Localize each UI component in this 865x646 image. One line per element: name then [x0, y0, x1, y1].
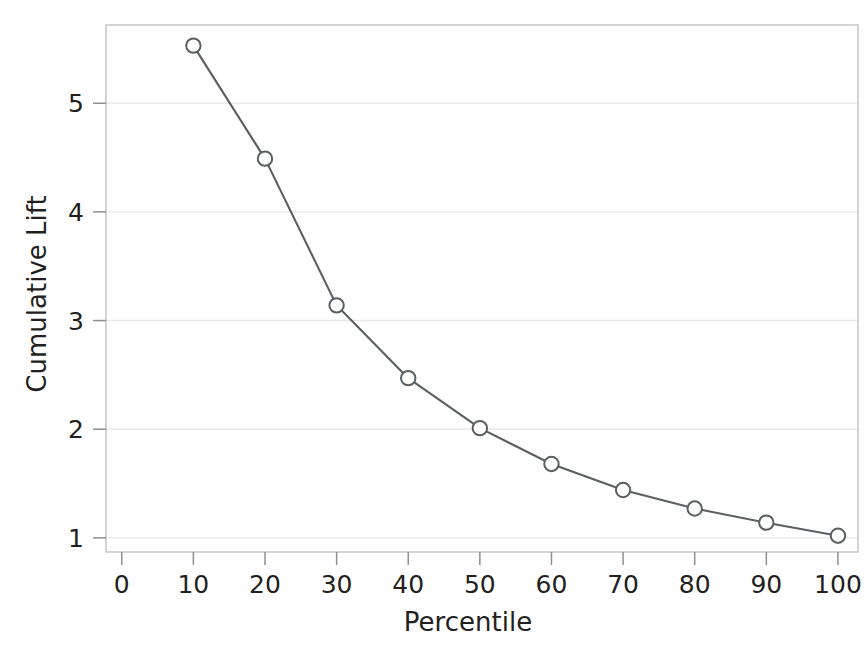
x-axis-title: Percentile [404, 607, 532, 637]
y-tick-label-1: 1 [68, 524, 84, 553]
data-point-20 [258, 151, 272, 165]
data-point-10 [186, 38, 200, 52]
data-point-40 [401, 371, 415, 385]
x-tick-label-70: 70 [607, 570, 639, 599]
data-point-30 [329, 298, 343, 312]
data-point-100 [831, 529, 845, 543]
x-tick-label-10: 10 [177, 570, 209, 599]
x-tick-label-60: 60 [536, 570, 568, 599]
chart-background [0, 0, 865, 646]
y-tick-label-4: 4 [68, 198, 84, 227]
data-point-50 [473, 421, 487, 435]
x-tick-label-20: 20 [249, 570, 281, 599]
x-tick-label-100: 100 [814, 570, 862, 599]
cumulative-lift-chart: 0102030405060708090100 12345 Percentile … [0, 0, 865, 646]
chart-container: 0102030405060708090100 12345 Percentile … [0, 0, 865, 646]
x-tick-label-80: 80 [679, 570, 711, 599]
data-point-80 [688, 501, 702, 515]
x-tick-label-50: 50 [464, 570, 496, 599]
x-tick-label-30: 30 [321, 570, 353, 599]
y-tick-label-3: 3 [68, 307, 84, 336]
y-axis-title: Cumulative Lift [22, 195, 52, 392]
y-tick-label-2: 2 [68, 415, 84, 444]
y-tick-label-5: 5 [68, 89, 84, 118]
data-point-60 [544, 457, 558, 471]
x-tick-label-90: 90 [750, 570, 782, 599]
data-point-70 [616, 483, 630, 497]
data-point-90 [759, 515, 773, 529]
x-tick-label-0: 0 [114, 570, 130, 599]
x-tick-label-40: 40 [392, 570, 424, 599]
